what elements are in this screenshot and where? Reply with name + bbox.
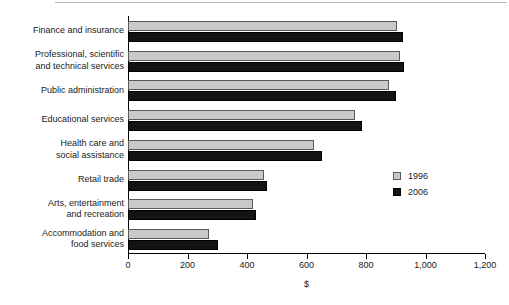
category-label: Health care andsocial assistance xyxy=(0,138,124,161)
legend-label-2006: 2006 xyxy=(408,187,428,197)
bar-2006 xyxy=(128,91,396,101)
legend-item-2006: 2006 xyxy=(393,184,428,200)
legend-item-1996: 1996 xyxy=(393,168,428,184)
x-axis-tick xyxy=(426,254,427,259)
x-axis-tick-label: 1,000 xyxy=(401,260,451,270)
bar-2006 xyxy=(128,240,218,250)
bar-1996 xyxy=(128,229,209,239)
bar-2006 xyxy=(128,210,256,220)
category-label-line: Finance and insurance xyxy=(0,25,124,37)
category-axis-labels: Finance and insuranceProfessional, scien… xyxy=(0,16,124,254)
bar-2006 xyxy=(128,32,403,42)
x-axis-tick xyxy=(247,254,248,259)
category-label: Public administration xyxy=(0,85,124,97)
category-label: Professional, scientificand technical se… xyxy=(0,49,124,72)
category-label-line: Retail trade xyxy=(0,174,124,186)
x-axis-tick-label: 600 xyxy=(282,260,332,270)
x-axis-title: $ xyxy=(128,279,485,289)
bar-group xyxy=(128,140,485,162)
bar-1996 xyxy=(128,199,253,209)
bar-1996 xyxy=(128,140,314,150)
category-label-line: Educational services xyxy=(0,114,124,126)
legend-swatch-1996-icon xyxy=(393,172,401,180)
x-axis-tick-label: 400 xyxy=(222,260,272,270)
category-label: Arts, entertainmentand recreation xyxy=(0,198,124,221)
category-label-line: social assistance xyxy=(0,150,124,162)
bar-1996 xyxy=(128,21,397,31)
x-axis-tick-label: 800 xyxy=(341,260,391,270)
bar-1996 xyxy=(128,80,389,90)
category-label-line: and technical services xyxy=(0,61,124,73)
x-axis-tick-label: 0 xyxy=(103,260,153,270)
category-label: Educational services xyxy=(0,114,124,126)
plot-area: 02004006008001,0001,200$ xyxy=(128,16,485,254)
bar-group xyxy=(128,110,485,132)
bar-group xyxy=(128,80,485,102)
bar-group xyxy=(128,199,485,221)
bar-chart: Finance and insuranceProfessional, scien… xyxy=(0,0,509,305)
bar-1996 xyxy=(128,51,400,61)
legend-label-1996: 1996 xyxy=(408,171,428,181)
category-label-line: food services xyxy=(0,239,124,251)
bar-2006 xyxy=(128,62,404,72)
category-label-line: Professional, scientific xyxy=(0,49,124,61)
bar-1996 xyxy=(128,170,264,180)
bar-group xyxy=(128,51,485,73)
x-axis-tick-label: 1,200 xyxy=(460,260,509,270)
chart-legend: 1996 2006 xyxy=(393,168,428,200)
category-label: Retail trade xyxy=(0,174,124,186)
category-label-line: Arts, entertainment xyxy=(0,198,124,210)
category-label-line: Public administration xyxy=(0,85,124,97)
x-axis-tick xyxy=(307,254,308,259)
x-axis-tick xyxy=(366,254,367,259)
x-axis-tick xyxy=(188,254,189,259)
x-axis-tick xyxy=(485,254,486,259)
bar-group xyxy=(128,229,485,251)
bar-group xyxy=(128,170,485,192)
x-axis-tick xyxy=(128,254,129,259)
bar-2006 xyxy=(128,121,362,131)
legend-swatch-2006-icon xyxy=(393,188,401,196)
category-label-line: Accommodation and xyxy=(0,228,124,240)
bar-group xyxy=(128,21,485,43)
category-label-line: and recreation xyxy=(0,209,124,221)
bar-2006 xyxy=(128,181,267,191)
category-label: Accommodation andfood services xyxy=(0,228,124,251)
bar-1996 xyxy=(128,110,355,120)
bar-2006 xyxy=(128,151,322,161)
x-axis-tick-label: 200 xyxy=(163,260,213,270)
category-label: Finance and insurance xyxy=(0,25,124,37)
category-label-line: Health care and xyxy=(0,138,124,150)
top-divider-rule xyxy=(55,2,507,3)
